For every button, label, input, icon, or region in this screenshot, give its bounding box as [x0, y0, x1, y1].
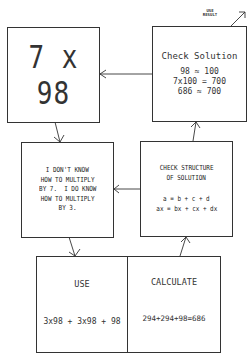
knowledge-line-2: HOW TO MULTIPLY: [41, 176, 95, 186]
check-structure-title-1: CHECK STRUCTURE: [160, 164, 214, 174]
knowledge-line-5: BY 3.: [59, 204, 77, 214]
use-result-label: USE RESULT: [200, 9, 220, 17]
knowledge-line-1: I DON'T KNOW: [46, 166, 89, 176]
problem-text: 7 x 98: [8, 39, 99, 111]
calculate-box: CALCULATE 294+294+98=686: [127, 256, 221, 353]
use-result-line2: RESULT: [200, 13, 220, 17]
knowledge-line-3: BY 7. I DO KNOW: [39, 185, 96, 195]
arrow-use-result: [231, 12, 245, 26]
arrow-knowledge-to-use: [69, 237, 75, 256]
problem-box: 7 x 98: [7, 27, 100, 123]
knowledge-line-4: HOW TO MULTIPLY: [41, 195, 95, 205]
check-structure-title-2: OF SOLUTION: [167, 174, 206, 184]
knowledge-box: I DON'T KNOW HOW TO MULTIPLY BY 7. I DO …: [21, 142, 114, 238]
use-box: USE 3x98 + 3x98 + 98: [36, 256, 128, 353]
use-title: USE: [37, 279, 127, 289]
calculate-equation: 294+294+98=686: [128, 314, 220, 323]
check-structure-eq-1: a = b + c + d: [163, 195, 210, 205]
check-solution-line-1: 98 ≈ 100: [180, 67, 219, 77]
check-structure-eq-2: ax = bx + cx + dx: [156, 205, 217, 215]
check-solution-box: Check Solution 98 ≈ 100 7x100 = 700 686 …: [152, 26, 247, 122]
check-solution-title: Check Solution: [162, 51, 238, 61]
check-solution-line-2: 7x100 = 700: [173, 77, 226, 87]
calculate-title: CALCULATE: [128, 277, 220, 287]
use-equation: 3x98 + 3x98 + 98: [37, 317, 127, 326]
check-solution-line-3: 686 ≈ 700: [178, 87, 221, 97]
check-structure-box: CHECK STRUCTURE OF SOLUTION a = b + c + …: [140, 141, 233, 237]
